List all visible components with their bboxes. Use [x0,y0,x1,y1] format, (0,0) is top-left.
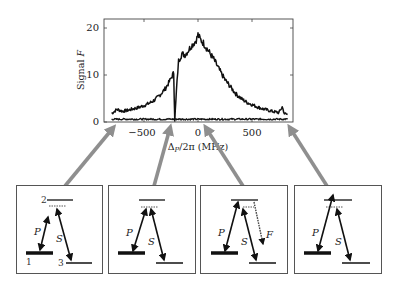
pointer-arrow-1 [65,128,113,186]
pointer-arrow-2 [154,128,170,186]
fluorescence-label: F [265,229,274,240]
data-traces [112,33,288,121]
pump-label: P [311,227,319,238]
figure: 0 10 20 −500 0 500 ΔP/2π (MHz) Signal F … [0,0,396,287]
ytick-label-10: 10 [86,69,99,80]
xtick-label-500: 500 [242,127,261,138]
baseline-trace [112,118,288,120]
pump-label: P [33,226,41,237]
xtick-label-neg500: −500 [128,127,155,138]
level-diagram-panel-2: P S [109,186,196,274]
stokes-label: S [335,236,342,247]
level-1-label: 1 [26,257,32,267]
pointer-arrow-4 [290,128,327,186]
pointer-arrow-3 [206,128,243,186]
stokes-label: S [241,236,248,247]
xtick-label-0: 0 [195,127,201,138]
pump-label: P [217,227,225,238]
y-axis-label: Signal F [75,50,86,90]
level-3-label: 3 [58,258,64,268]
level-diagram-panel-4: P S [295,186,382,274]
pump-label: P [125,227,133,238]
ytick-label-0: 0 [93,116,99,127]
signal-trace [112,33,288,121]
level-diagram-panel-3: P S F [201,186,288,274]
level-2-label: 2 [41,195,47,205]
stokes-label: S [56,233,63,244]
level-diagram-panel-1: 2 1 3 P S [17,186,103,274]
stokes-label: S [148,236,155,247]
ytick-label-20: 20 [86,22,99,33]
